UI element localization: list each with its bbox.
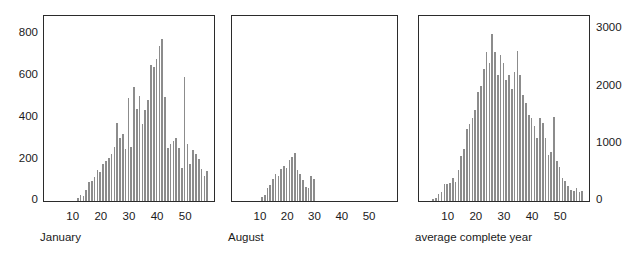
bar [525,103,527,201]
bar [581,191,583,201]
bar [497,75,499,201]
bar [486,52,488,201]
bar [491,34,493,201]
ytick-label-average-complete-year-2: 2000 [596,80,622,92]
bar [562,178,564,201]
bar [494,52,496,201]
bar [432,199,434,201]
bar [519,75,521,201]
bar [539,118,541,201]
bar [466,129,468,201]
bar [480,86,482,201]
bar [469,124,471,201]
xtick-label-average-complete-year-4: 50 [554,211,567,223]
bar [522,95,524,201]
bar [556,161,558,201]
bar [576,188,578,201]
bar [463,149,465,201]
bar [477,92,479,201]
bar [435,198,437,201]
bar [545,138,547,201]
bar [579,192,581,201]
xtick-label-average-complete-year-1: 20 [469,211,482,223]
bar [548,155,550,201]
bar [517,51,519,201]
xtick-label-average-complete-year-3: 40 [526,211,539,223]
bar [452,178,454,201]
xtick-label-average-complete-year-0: 10 [441,211,454,223]
bar [542,123,544,201]
bar [570,190,572,201]
xtick-label-average-complete-year-2: 30 [498,211,511,223]
histogram-figure: 02004006008001020304050January1020304050… [0,0,634,261]
plot-area-average-complete-year [418,15,590,202]
bar [503,63,505,201]
bar [458,170,460,201]
panel-average-complete-year: 01000200030001020304050average complete … [0,0,634,261]
bar [564,181,566,201]
bar [514,72,516,201]
bar [500,55,502,201]
bar [505,80,507,201]
bar [534,126,536,201]
ytick-label-average-complete-year-1: 1000 [596,137,622,149]
bar [441,192,443,201]
panel-caption-average-complete-year: average complete year [415,232,532,244]
bar [444,184,446,201]
bar [536,138,538,201]
bar [483,69,485,201]
bar [511,89,513,201]
bar [472,118,474,201]
bar [449,183,451,201]
bar [455,182,457,201]
bar [573,191,575,201]
bar-series-average-complete-year [419,16,589,201]
bar [559,167,561,201]
bar [531,118,533,201]
bar [438,194,440,201]
bar [460,156,462,201]
bar [489,63,491,201]
bar [474,110,476,201]
bar [446,184,448,201]
ytick-label-average-complete-year-0: 0 [596,194,602,206]
bar [508,75,510,201]
bar [553,117,555,201]
ytick-label-average-complete-year-3: 3000 [596,22,622,34]
bar [567,186,569,201]
bar [528,115,530,201]
bar [550,152,552,201]
